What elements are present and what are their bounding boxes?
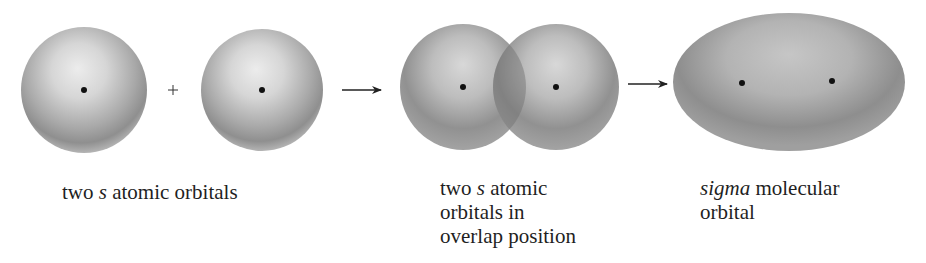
orbital-symbol-s: s (99, 180, 107, 204)
s-orbital-right (201, 29, 323, 151)
label-line: overlap position (440, 224, 576, 248)
label-line: sigma molecular (700, 176, 839, 200)
label-line: orbitals in (440, 200, 576, 224)
label-line: orbital (700, 200, 839, 224)
nucleus-dot (829, 78, 835, 84)
nucleus-dot (739, 80, 745, 86)
stage-sigma-orbital (673, 13, 905, 151)
nucleus-dot (259, 87, 265, 93)
sigma-term: sigma (700, 176, 750, 200)
label-separate-orbitals: two s atomic orbitals (62, 180, 238, 204)
nucleus-dot (460, 84, 466, 90)
label-overlap-orbitals: two s atomic orbitals in overlap positio… (440, 176, 576, 248)
stage-overlap-orbitals (400, 24, 619, 150)
orbital-symbol-s: s (477, 176, 485, 200)
nucleus-dot (81, 87, 87, 93)
label-sigma-orbital: sigma molecular orbital (700, 176, 839, 224)
s-orbital-left (21, 27, 147, 153)
label-line: two s atomic orbitals (62, 180, 238, 204)
sigma-molecular-orbital (673, 13, 905, 151)
nucleus-dot (553, 84, 559, 90)
stage-separate-orbitals (21, 27, 323, 153)
plus-sign-icon (168, 85, 178, 95)
label-line: two s atomic (440, 176, 576, 200)
